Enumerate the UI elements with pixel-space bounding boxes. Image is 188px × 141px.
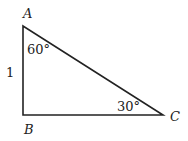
vertex-b-label: B	[23, 122, 34, 137]
side-ab-label: 1	[6, 65, 14, 80]
triangle-abc	[23, 26, 163, 115]
angle-c-label: 30°	[117, 99, 140, 114]
angle-a-label: 60°	[27, 42, 50, 57]
vertex-a-label: A	[22, 6, 32, 21]
triangle-diagram: A 60° 1 30° B C	[0, 0, 188, 141]
vertex-c-label: C	[170, 109, 180, 124]
